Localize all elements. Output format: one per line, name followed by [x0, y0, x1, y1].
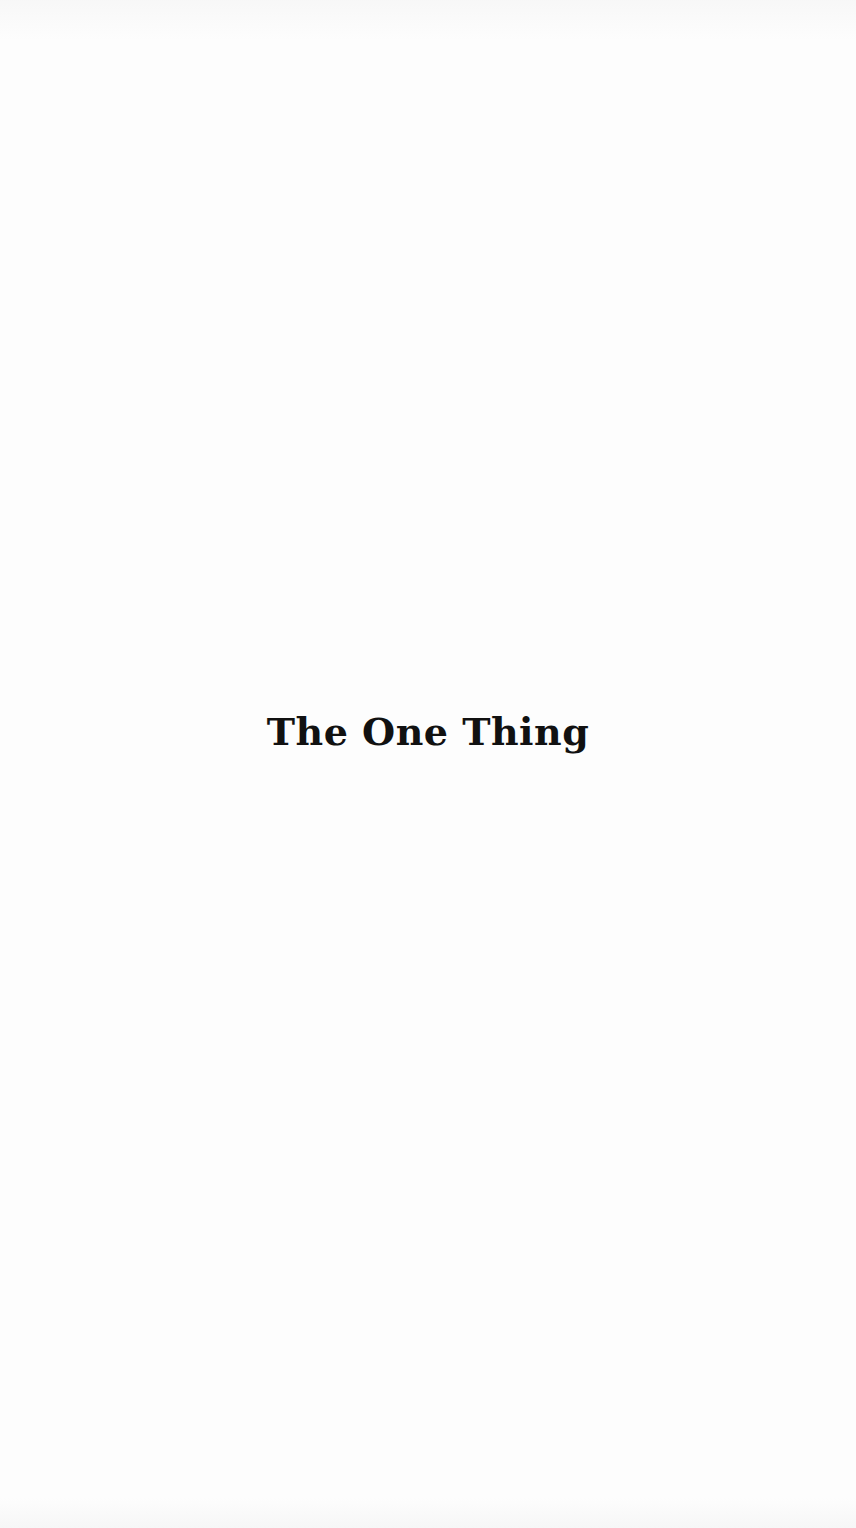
half-title: The One Thing [0, 707, 856, 757]
book-page: The One Thing [0, 0, 856, 1528]
